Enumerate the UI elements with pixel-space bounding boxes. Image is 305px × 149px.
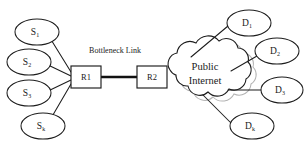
source-node-s1[interactable]: S1 (15, 19, 59, 45)
source-node-s2[interactable]: S2 (7, 49, 51, 75)
network-topology-figure: Public Internet R1 R2 S1 S2 (0, 0, 305, 149)
router-r1[interactable]: R1 (71, 66, 101, 88)
destination-node-d3[interactable]: D3 (261, 77, 303, 103)
source-edge-group (46, 38, 71, 120)
router-r2-label: R2 (147, 72, 157, 82)
cloud-label-line2: Internet (189, 75, 222, 86)
diagram-canvas: Public Internet R1 R2 S1 S2 (0, 0, 305, 149)
destination-node-d2[interactable]: D2 (255, 38, 299, 64)
destination-node-dk[interactable]: Dk (230, 113, 274, 139)
public-internet-cloud: Public Internet (168, 36, 256, 101)
cloud-label-line1: Public (192, 61, 219, 72)
source-node-s3[interactable]: S3 (7, 80, 51, 106)
bottleneck-link-caption: Bottleneck Link (89, 46, 141, 55)
destination-node-d1[interactable]: D1 (227, 10, 271, 36)
router-r1-label: R1 (81, 72, 91, 82)
router-r2[interactable]: R2 (137, 66, 167, 88)
source-node-sk[interactable]: Sk (21, 113, 65, 139)
edge-cloud-dk (203, 95, 231, 123)
